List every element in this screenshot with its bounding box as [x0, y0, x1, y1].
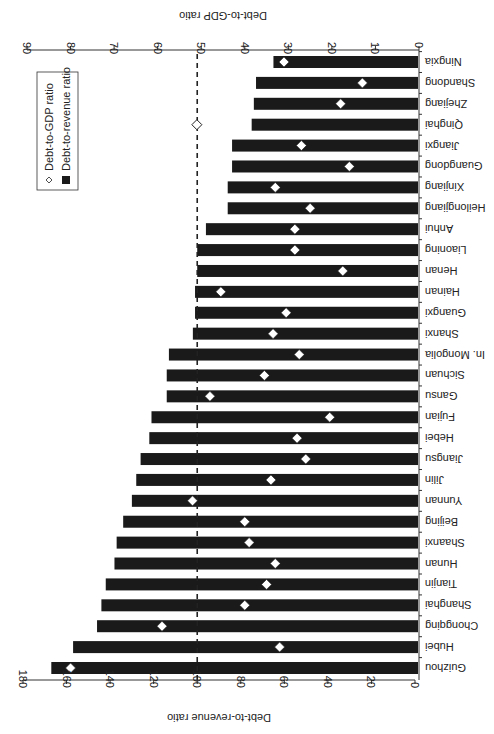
x-tick-label: 60	[278, 676, 290, 688]
category-label: Sichuan	[425, 369, 465, 381]
category-label: Tianjin	[425, 578, 457, 590]
bar-ningxia	[273, 56, 418, 68]
bar-gansu	[167, 390, 418, 402]
x2-tick-label: 0	[413, 42, 425, 48]
x-tick-label: 80	[235, 676, 247, 688]
bar-sichuan	[167, 369, 418, 381]
bar-fujian	[151, 411, 418, 423]
bar-jilin	[136, 474, 418, 486]
x-axis-title: Debt-to-revenue ratio	[167, 712, 271, 724]
category-label: Jilin	[425, 474, 444, 486]
bar-chongqing	[97, 620, 418, 632]
category-label: Guangdong	[425, 160, 483, 172]
category-label: Shaanxi	[425, 537, 465, 549]
category-label: Shanxi	[425, 328, 459, 340]
diamond-icon	[192, 120, 202, 130]
category-label: Liaoning	[425, 244, 467, 256]
bar-jiangxi	[232, 140, 418, 152]
bar-hubei	[73, 641, 418, 653]
bar-shaanxi	[117, 537, 418, 549]
legend-label: Debt-to-GDP ratio	[43, 83, 55, 171]
category-label: Shandong	[425, 77, 475, 89]
x2-axis-title: Debt-to-GDP ratio	[179, 10, 267, 22]
bar-anhui	[206, 223, 418, 235]
bar-jiangsu	[141, 453, 418, 465]
bar-xinjiang	[228, 181, 418, 193]
x-tick-label: 140	[104, 670, 116, 688]
x2-tick-label: 50	[195, 42, 207, 54]
bar-in-mongolia	[169, 349, 418, 361]
category-label: Ningxia	[424, 56, 462, 68]
x-tick-label: 40	[322, 676, 334, 688]
x2-tick-label: 10	[369, 42, 381, 54]
legend: Debt-to-revenue ratioDebt-to-GDP ratio	[37, 67, 78, 190]
bar-hainan	[195, 286, 418, 298]
category-label: Heilongjiang	[425, 202, 486, 214]
category-label: Zhejiang	[425, 98, 467, 110]
x2-tick-label: 70	[108, 42, 120, 54]
x2-tick-label: 80	[65, 42, 77, 54]
category-label: Hebei	[425, 432, 454, 444]
bar-hunan	[114, 558, 418, 570]
category-label: Qinghai	[425, 119, 463, 131]
bars-layer	[51, 56, 418, 674]
category-label: Gansu	[425, 390, 457, 402]
x-tick-label: 20	[365, 676, 377, 688]
category-label: Hainan	[425, 286, 460, 298]
axes-layer: GuizhouHubeiChongqingShanghaiTianjinHuna…	[17, 10, 486, 724]
category-label: Hunan	[425, 558, 457, 570]
bar-yunnan	[132, 495, 418, 507]
bar-guangxi	[195, 307, 418, 319]
x-tick-label: 180	[17, 670, 29, 688]
category-label: Shanghai	[425, 599, 472, 611]
category-label: Yunnan	[425, 495, 462, 507]
chart-container: GuizhouHubeiChongqingShanghaiTianjinHuna…	[0, 0, 494, 734]
category-label: Jiangsu	[425, 453, 463, 465]
bar-qinghai	[252, 119, 418, 131]
category-label: Henan	[425, 265, 457, 277]
x-tick-label: 0	[409, 682, 421, 688]
x-tick-label: 100	[191, 670, 203, 688]
category-label: Anhui	[425, 223, 453, 235]
bar-heilongjiang	[228, 202, 418, 214]
category-label: Jiangxi	[425, 140, 459, 152]
category-label: Beijing	[425, 516, 458, 528]
x2-tick-label: 20	[326, 42, 338, 54]
legend-label: Debt-to-revenue ratio	[60, 67, 72, 171]
bar-chart: GuizhouHubeiChongqingShanghaiTianjinHuna…	[0, 0, 494, 734]
category-label: Hubei	[425, 641, 454, 653]
category-label: Chongqing	[425, 620, 478, 632]
bar-liaoning	[197, 244, 418, 256]
bar-shanghai	[101, 599, 418, 611]
category-label: In. Mongolia	[424, 349, 485, 361]
bar-beijing	[123, 516, 418, 528]
category-label: Xinjiang	[425, 181, 464, 193]
bar-guangdong	[232, 160, 418, 172]
rotated-chart-group: GuizhouHubeiChongqingShanghaiTianjinHuna…	[17, 10, 486, 724]
x-tick-label: 160	[61, 670, 73, 688]
x-tick-label: 120	[148, 670, 160, 688]
bar-shanxi	[193, 328, 418, 340]
x2-tick-label: 60	[152, 42, 164, 54]
x2-tick-label: 40	[239, 42, 251, 54]
category-label: Guizhou	[425, 662, 466, 674]
x2-tick-label: 90	[21, 42, 33, 54]
bar-henan	[197, 265, 418, 277]
bar-shandong	[256, 77, 418, 89]
bar-hebei	[149, 432, 418, 444]
category-label: Fujian	[425, 411, 455, 423]
category-label: Guangxi	[425, 307, 466, 319]
x2-tick-label: 30	[282, 42, 294, 54]
